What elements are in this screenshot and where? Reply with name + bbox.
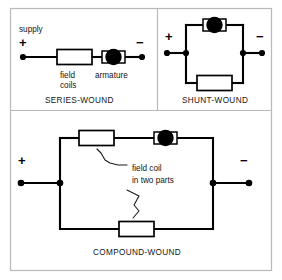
compound-field-coil-part-1-resistor [79,131,114,146]
series-armature-symbol [102,49,125,65]
series-field-coils-label-line1: field [60,71,75,80]
compound-annotation-line2: in two parts [132,176,174,185]
compound-field-coil-part-2-resistor [119,222,154,237]
panel-compound-wound: + − [18,130,253,257]
compound-right-junction-dot [210,180,217,187]
compound-positive-sign: + [18,153,26,168]
compound-annotation-line1: field coil [132,164,162,173]
compound-armature-symbol [154,130,177,146]
shunt-positive-sign: + [165,29,173,44]
shunt-right-junction-dot [240,50,246,56]
series-negative-terminal-dot [139,54,145,60]
compound-leader-line-upper [97,149,127,165]
motor-winding-diagram-figure: supply + − field coils armature [0,0,282,280]
compound-leader-line-lower [127,190,139,218]
panel-series-wound: supply + − field coils armature [19,25,145,105]
shunt-armature-symbol [203,17,226,33]
shunt-left-junction-dot [183,50,189,56]
shunt-negative-terminal-dot [259,50,265,56]
series-positive-sign: + [19,35,27,50]
series-wound-caption: SERIES-WOUND [45,96,114,105]
series-field-coils-resistor [57,50,92,65]
shunt-negative-sign: − [256,29,264,44]
compound-wound-caption: COMPOUND-WOUND [93,248,181,257]
compound-positive-terminal-dot [18,180,25,187]
series-negative-sign: − [136,35,144,50]
series-field-coils-label-line2: coils [60,81,76,90]
series-armature-label: armature [95,71,128,80]
panel-shunt-wound: + − [164,17,265,105]
compound-negative-terminal-dot [246,180,253,187]
compound-left-junction-dot [57,180,64,187]
shunt-positive-terminal-dot [164,50,170,56]
shunt-wound-caption: SHUNT-WOUND [182,96,248,105]
shunt-wiring [167,25,262,83]
shunt-field-coil-resistor [197,76,232,91]
series-positive-terminal-dot [20,54,26,60]
series-supply-label: supply [19,25,44,34]
compound-negative-sign: − [240,153,248,168]
